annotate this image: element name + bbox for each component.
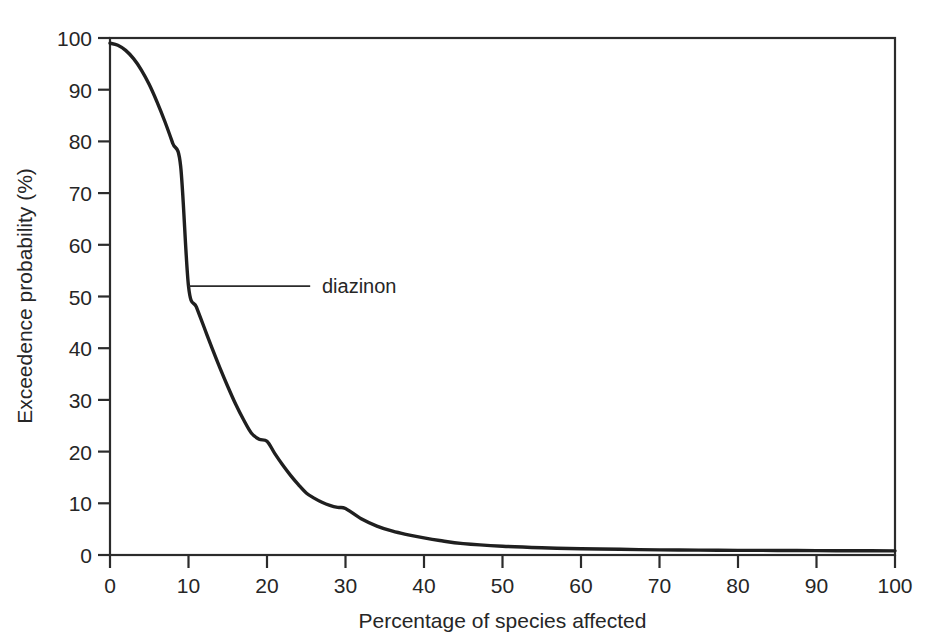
y-axis-title: Exceedence probability (%) xyxy=(13,168,36,424)
y-tick-label: 60 xyxy=(69,234,92,257)
annotation-label-diazinon: diazinon xyxy=(322,275,397,297)
x-axis-tick-labels: 0 10 20 30 40 50 60 70 80 90 100 xyxy=(104,574,912,597)
y-axis-tick-labels: 100 90 80 70 60 50 40 30 20 10 0 xyxy=(57,27,92,567)
y-tick-label: 100 xyxy=(57,27,92,50)
x-tick-label: 20 xyxy=(255,574,278,597)
plot-frame xyxy=(110,38,895,555)
chart-figure: 100 90 80 70 60 50 40 30 20 10 0 xyxy=(0,0,935,644)
x-axis-ticks xyxy=(110,555,895,568)
y-tick-label: 10 xyxy=(69,492,92,515)
x-tick-label: 60 xyxy=(569,574,592,597)
x-tick-label: 90 xyxy=(805,574,828,597)
x-tick-label: 80 xyxy=(726,574,749,597)
x-tick-label: 40 xyxy=(412,574,435,597)
y-tick-label: 70 xyxy=(69,182,92,205)
x-tick-label: 50 xyxy=(491,574,514,597)
x-tick-label: 100 xyxy=(877,574,912,597)
x-tick-label: 30 xyxy=(334,574,357,597)
x-tick-label: 70 xyxy=(648,574,671,597)
y-tick-label: 80 xyxy=(69,130,92,153)
x-tick-label: 10 xyxy=(177,574,200,597)
y-tick-label: 0 xyxy=(80,544,92,567)
y-tick-label: 90 xyxy=(69,79,92,102)
data-curve-diazinon xyxy=(110,43,895,551)
x-axis-title: Percentage of species affected xyxy=(359,609,647,632)
y-tick-label: 20 xyxy=(69,441,92,464)
y-axis-ticks xyxy=(98,38,110,555)
exceedence-probability-chart: 100 90 80 70 60 50 40 30 20 10 0 xyxy=(0,0,935,644)
x-tick-label: 0 xyxy=(104,574,116,597)
y-tick-label: 30 xyxy=(69,389,92,412)
y-tick-label: 40 xyxy=(69,337,92,360)
y-tick-label: 50 xyxy=(69,286,92,309)
